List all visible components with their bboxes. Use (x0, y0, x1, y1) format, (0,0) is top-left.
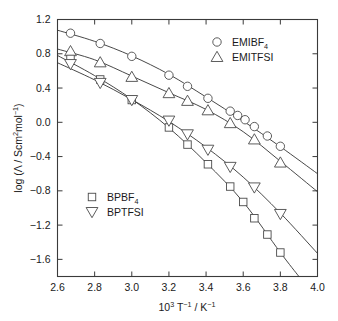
marker-BPBF4 (184, 141, 191, 148)
marker-BPBF4 (264, 231, 271, 238)
y-axis-title-suffix: ) (12, 103, 24, 107)
x-axis-title-k-exp: −1 (207, 300, 215, 309)
legend-marker-BPTFSI (86, 208, 98, 218)
marker-EMIBF4 (96, 39, 104, 47)
y-axis-title-sup-neg1: −1 (11, 107, 20, 115)
x-tick-label: 4.0 (310, 281, 325, 293)
y-tick-label: −0.8 (30, 184, 51, 196)
y-axis-title-prefix: log (Λ / Scm (12, 136, 24, 193)
x-axis-title-t-exp: −1 (183, 300, 191, 309)
x-axis-title-div: / K (192, 301, 208, 313)
x-tick-labels: 2.62.83.03.23.43.63.84.0 (50, 281, 325, 293)
legend-label-BPBF: BPBF4 (107, 191, 138, 206)
marker-EMIBF4 (183, 82, 191, 90)
y-axis-title: log (Λ / Scm2mol−1) (11, 103, 24, 192)
y-tick-label: 0.4 (36, 82, 51, 94)
legend-label-BPTFSI: BPTFSI (107, 206, 144, 218)
marker-EMIBF4 (128, 52, 136, 60)
marker-EMITFSI (202, 105, 214, 115)
marker-EMITFSI (163, 87, 175, 97)
marker-BPBF4 (204, 161, 211, 168)
y-tick-label: −1.6 (30, 253, 51, 265)
marker-EMIBF4 (241, 116, 249, 124)
legend-marker-BPBF (88, 193, 95, 200)
curve-BPTFSI (58, 63, 318, 254)
marker-EMITFSI (126, 71, 138, 81)
y-tick-label: −1.2 (30, 219, 51, 231)
marker-EMITFSI (182, 95, 194, 105)
arrhenius-conductivity-plot: 2.62.83.03.23.43.63.84.0 1.20.80.40.0−0.… (0, 0, 338, 321)
marker-EMITFSI (94, 57, 106, 67)
legend-marker-EMITFSI (211, 51, 223, 61)
y-tick-label: 1.2 (36, 13, 51, 25)
x-tick-label: 2.8 (87, 281, 102, 293)
marker-BPTFSI (274, 209, 286, 219)
x-axis-title-base: 10 (158, 301, 170, 313)
legend-label-EMIBF: EMIBF4 (232, 36, 268, 51)
svg-text:103 T−1 / K−1: 103 T−1 / K−1 (158, 300, 215, 313)
marker-EMIBF4 (165, 71, 173, 79)
legend-marker-EMIBF (213, 38, 221, 46)
marker-EMITFSI (248, 134, 260, 144)
y-tick-label: 0.0 (36, 116, 51, 128)
curve-BPBF4 (58, 55, 299, 276)
x-tick-label: 3.4 (199, 281, 214, 293)
y-axis-title-mid: mol (12, 115, 24, 132)
y-tick-labels: 1.20.80.40.0−0.4−0.8−1.2−1.6 (30, 13, 51, 265)
marker-EMIBF4 (66, 29, 74, 37)
chart-figure: 2.62.83.03.23.43.63.84.0 1.20.80.40.0−0.… (0, 0, 338, 321)
marker-BPBF4 (251, 215, 258, 222)
marker-BPBF4 (239, 198, 246, 205)
x-tick-label: 2.6 (50, 281, 65, 293)
marker-BPTFSI (224, 162, 236, 172)
x-tick-label: 3.2 (162, 281, 177, 293)
marker-EMIBF4 (263, 132, 271, 140)
y-tick-label: −0.4 (30, 150, 51, 162)
marker-BPBF4 (226, 183, 233, 190)
marker-EMIBF4 (204, 94, 212, 102)
x-tick-label: 3.0 (124, 281, 139, 293)
data-markers (65, 29, 287, 256)
marker-EMITFSI (224, 117, 236, 127)
legend-label-EMITFSI: EMITFSI (232, 51, 273, 63)
x-tick-label: 3.8 (273, 281, 288, 293)
x-axis-title: 103 T−1 / K−1 (158, 300, 215, 313)
marker-BPBF4 (277, 249, 284, 256)
marker-EMIBF4 (250, 122, 258, 130)
marker-EMIBF4 (276, 142, 284, 150)
svg-text:log (Λ / Scm2mol−1): log (Λ / Scm2mol−1) (11, 103, 24, 192)
legend-middle-left: BPBF4BPTFSI (86, 191, 144, 218)
legend-top-right: EMIBF4EMITFSI (211, 36, 273, 63)
marker-EMIBF4 (226, 107, 234, 115)
curve-EMITFSI (58, 49, 318, 192)
x-tick-label: 3.6 (236, 281, 251, 293)
marker-EMITFSI (65, 46, 77, 56)
marker-EMIBF4 (233, 111, 241, 119)
y-tick-label: 0.8 (36, 47, 51, 59)
marker-BPTFSI (202, 145, 214, 155)
marker-BPTFSI (182, 130, 194, 140)
